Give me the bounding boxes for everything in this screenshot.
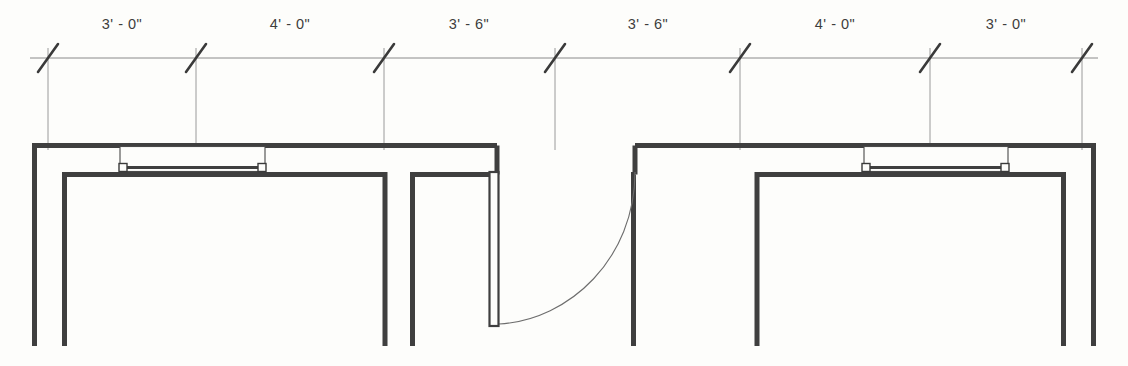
door-swing-arc	[499, 172, 635, 324]
floor-plan-drawing: 3' - 0"4' - 0"3' - 6"3' - 6"4' - 0"3' - …	[0, 0, 1128, 366]
wall-assembly	[35, 146, 1094, 347]
wall-right-inner	[757, 175, 1064, 347]
window-right-jamb-marker-start	[862, 164, 870, 172]
dimension-label-2: 3' - 6"	[449, 16, 489, 32]
door-leaf	[490, 172, 499, 326]
door-single-swing	[490, 172, 636, 326]
plan-canvas	[0, 0, 1128, 366]
wall-left-inner	[65, 175, 386, 347]
dimension-label-3: 3' - 6"	[628, 16, 668, 32]
window-right	[862, 147, 1009, 172]
dimension-label-1: 4' - 0"	[270, 16, 310, 32]
window-left-jamb-marker-start	[119, 164, 127, 172]
window-right-jamb-marker-end	[1001, 164, 1009, 172]
wall-center-pier-left	[413, 175, 498, 347]
dimension-label-5: 3' - 0"	[986, 16, 1026, 32]
dimension-label-0: 3' - 0"	[102, 16, 142, 32]
window-left	[119, 147, 266, 172]
wall-center-pier-right	[634, 175, 636, 347]
wall-end-caps	[497, 146, 635, 175]
dimension-label-4: 4' - 0"	[815, 16, 855, 32]
window-left-jamb-marker-end	[258, 164, 266, 172]
